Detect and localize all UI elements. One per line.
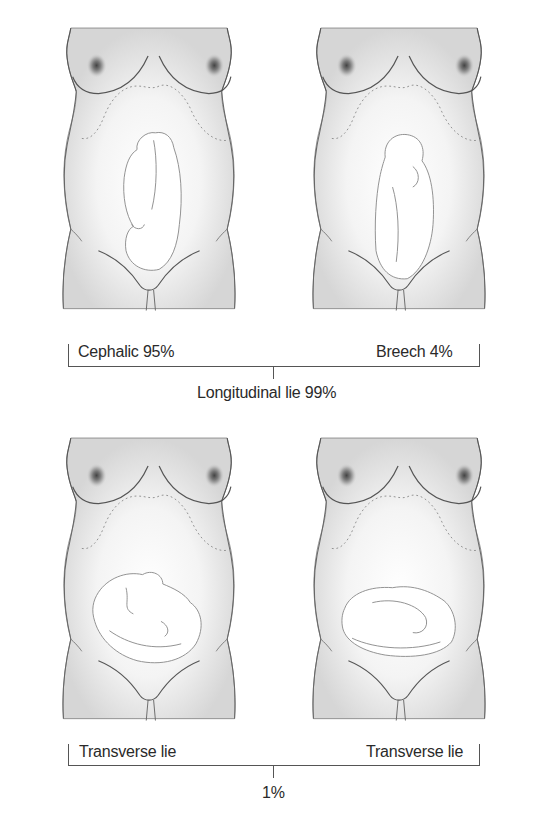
bracket-tick-transverse <box>273 766 274 778</box>
figure-transverse-right <box>284 410 514 728</box>
figure-cephalic <box>34 0 264 318</box>
figure-breech <box>284 0 514 318</box>
label-cephalic: Cephalic 95% <box>78 343 174 361</box>
torso-transverse-right-illustration <box>284 410 514 728</box>
label-transverse-percent: 1% <box>262 784 285 802</box>
label-transverse-right: Transverse lie <box>366 743 463 761</box>
torso-transverse-left-illustration <box>34 410 264 728</box>
figure-transverse-left <box>34 410 264 728</box>
label-breech: Breech 4% <box>376 343 452 361</box>
torso-cephalic-illustration <box>34 0 264 318</box>
bracket-tick-longitudinal <box>273 367 274 379</box>
label-longitudinal-lie: Longitudinal lie 99% <box>197 384 336 402</box>
fetus-transverse-right-icon <box>342 587 455 657</box>
torso-breech-illustration <box>284 0 514 318</box>
label-transverse-left: Transverse lie <box>79 743 176 761</box>
